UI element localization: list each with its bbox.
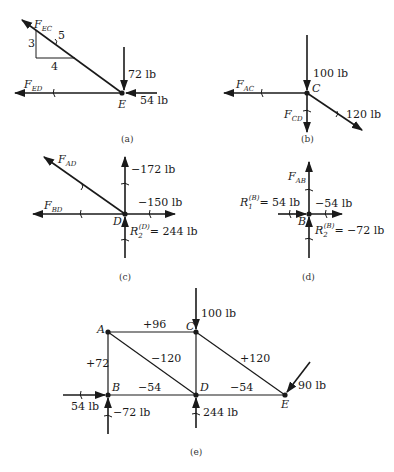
truss-joint-diagrams: 3 4 5 FEC 72 lb FED 54 lb E (a) 100 lb F…: [0, 0, 394, 472]
force-f-ad-label: FAD: [57, 153, 77, 168]
panel-b-joint-c: 100 lb FAC FCD 120 lb C (b): [224, 35, 381, 144]
caption-b: (b): [301, 134, 314, 144]
member-ce-force: +120: [240, 352, 270, 365]
force-f-ac-label: FAC: [235, 78, 255, 93]
load-e-label: 90 lb: [298, 379, 326, 392]
reaction-r2-b-label: R2(B)= −72 lb: [314, 222, 384, 239]
reaction-r2-d-label: R2(D)= 244 lb: [129, 223, 198, 240]
force-172lb-label: −172 lb: [131, 163, 175, 176]
slope-run-label: 4: [51, 60, 58, 73]
force-f-ec-label: FEC: [33, 18, 53, 33]
force-f-ed-label: FED: [23, 78, 43, 93]
joint-d-label: D: [112, 215, 122, 228]
load-b-vertical-label: −72 lb: [113, 406, 150, 419]
load-d-vertical-label: 244 lb: [203, 406, 238, 419]
joint-e-node: [282, 392, 287, 397]
panel-c-joint-d: −172 lb FAD FBD −150 lb R2(D)= 244 lb D …: [33, 153, 198, 282]
load-b-horizontal-label: 54 lb: [71, 400, 99, 413]
joint-e-node: [119, 90, 124, 95]
force-120lb-label: 120 lb: [346, 108, 381, 121]
reaction-r1-b-label: R1(B)= 54 lb: [239, 194, 300, 211]
joint-b-label: B: [111, 381, 120, 394]
caption-e: (e): [190, 447, 202, 457]
member-bd-force: −54: [138, 381, 161, 394]
force-54lb-label: −54 lb: [315, 197, 352, 210]
force-f-ab-label: FAB: [287, 170, 306, 185]
joint-c-node: [304, 90, 309, 95]
load-72lb-label: 72 lb: [128, 68, 156, 81]
member-break-icon: [55, 39, 57, 44]
panel-a-joint-e: 3 4 5 FEC 72 lb FED 54 lb E (a): [15, 18, 168, 144]
joint-e-label: E: [280, 398, 289, 411]
member-ac-force: +96: [143, 318, 166, 331]
caption-c: (c): [119, 272, 131, 282]
member-ab-force: +72: [86, 357, 109, 370]
load-100lb-label: 100 lb: [313, 67, 348, 80]
caption-d: (d): [302, 272, 315, 282]
panel-e-full-truss: +96 +72 −120 −54 −54 +120 100 lb 90 lb 5…: [63, 288, 326, 457]
slope-hyp-label: 5: [58, 29, 65, 42]
load-54lb-label: 54 lb: [140, 94, 168, 107]
slope-rise-label: 3: [28, 37, 35, 50]
joint-d-label: D: [199, 381, 209, 394]
joint-b-label: B: [297, 215, 306, 228]
joint-d-node: [193, 392, 198, 397]
joint-a-label: A: [96, 323, 105, 336]
member-de-force: −54: [230, 381, 253, 394]
force-150lb-label: −150 lb: [138, 196, 182, 209]
load-c-label: 100 lb: [201, 307, 236, 320]
caption-a: (a): [121, 134, 133, 144]
force-f-bd-label: FBD: [43, 199, 63, 214]
joint-a-node: [105, 329, 110, 334]
joint-b-node: [306, 211, 311, 216]
force-f-cd-label: FCD: [283, 108, 303, 123]
joint-b-node: [105, 392, 110, 397]
joint-c-label: C: [186, 320, 195, 333]
member-ad-force: −120: [151, 352, 181, 365]
joint-d-node: [122, 211, 127, 216]
panel-d-joint-b: FAB R1(B)= 54 lb −54 lb R2(B)= −72 lb B …: [239, 162, 384, 282]
member-break-icon: [81, 184, 83, 190]
joint-e-label: E: [117, 98, 126, 111]
joint-c-label: C: [312, 82, 321, 95]
